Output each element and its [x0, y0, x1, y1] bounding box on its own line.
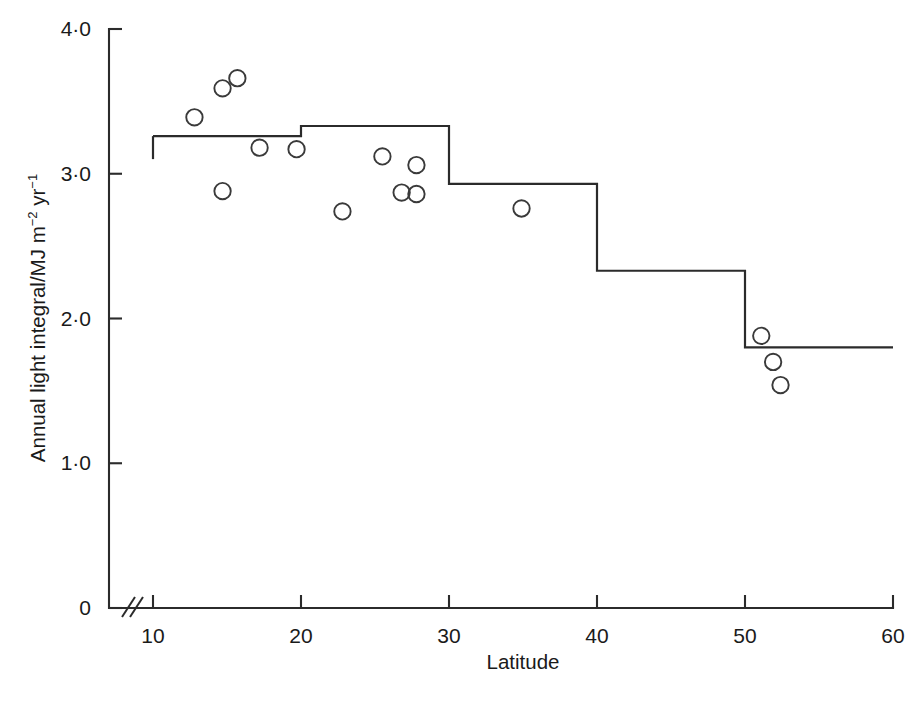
- data-point-marker: [772, 377, 788, 393]
- data-point-marker: [408, 157, 424, 173]
- data-point-marker: [334, 203, 350, 219]
- data-point-marker: [374, 148, 390, 164]
- data-point-marker: [408, 186, 424, 202]
- data-point-marker: [186, 109, 202, 125]
- data-point-marker: [214, 183, 230, 199]
- axis-spines: [109, 29, 893, 608]
- data-point-marker: [513, 200, 529, 216]
- data-point-marker: [214, 80, 230, 96]
- data-point-marker: [753, 328, 769, 344]
- data-point-marker: [765, 354, 781, 370]
- chart-canvas: [0, 0, 915, 713]
- data-point-marker: [229, 70, 245, 86]
- axis-ticks: [109, 29, 893, 608]
- data-point-marker: [288, 141, 304, 157]
- data-point-marker: [393, 184, 409, 200]
- axes: [109, 29, 893, 608]
- figure-container: Annual light integral/MJ m−2 yr−1 Latitu…: [0, 0, 915, 713]
- step-line-series: [153, 126, 893, 347]
- data-point-marker: [251, 139, 267, 155]
- band-mean-step-line: [153, 126, 893, 347]
- scatter-markers: [186, 70, 788, 393]
